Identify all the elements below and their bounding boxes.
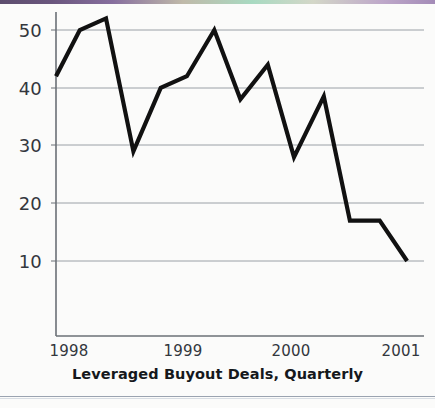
y-axis-label-10: 10: [6, 251, 42, 272]
data-series-line: [56, 18, 407, 261]
figure-container: 50 40 30 20 10 1998 1999 2000 2001 Lever…: [0, 0, 435, 408]
x-axis-label-1999: 1999: [153, 342, 213, 360]
y-axis-label-40: 40: [6, 78, 42, 99]
x-axis-label-2001: 2001: [371, 342, 431, 360]
x-axis-label-1998: 1998: [39, 342, 99, 360]
gridlines: [56, 30, 424, 261]
bottom-divider-shadow: [0, 398, 435, 399]
chart-title: Leveraged Buyout Deals, Quarterly: [0, 366, 435, 382]
x-axis-label-2000: 2000: [261, 342, 321, 360]
y-axis-label-20: 20: [6, 193, 42, 214]
bottom-divider: [0, 396, 435, 397]
y-axis-label-50: 50: [6, 20, 42, 41]
y-axis-label-30: 30: [6, 135, 42, 156]
